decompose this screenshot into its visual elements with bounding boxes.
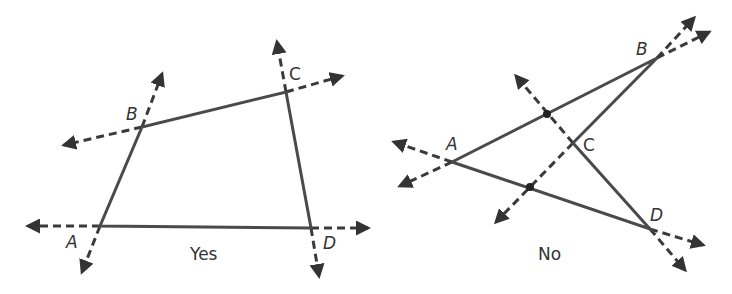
line-ab-extension-up (142, 74, 162, 127)
vertex-label-a: A (445, 134, 458, 154)
vertex-label-a: A (65, 232, 78, 252)
figure-caption-no: No (538, 244, 561, 264)
line-cd-extension-up (516, 76, 573, 143)
figure-caption-yes: Yes (189, 244, 218, 264)
intersection-point (543, 110, 551, 118)
line-ab-extension-down (82, 226, 100, 272)
vertex-label-d: D (323, 233, 336, 253)
quadrilateral-abcd (452, 58, 657, 229)
line-bc-extension-up (657, 18, 694, 58)
diagram-canvas: A B C D Yes A B C D No (0, 0, 732, 294)
line-ad-extension-right (650, 229, 703, 245)
line-cd-extension-down (311, 228, 319, 276)
vertex-label-c: C (583, 135, 595, 155)
line-bc-extension-down (496, 143, 573, 222)
line-ab-extension-left (400, 162, 452, 186)
line-cd-extension-up (277, 42, 286, 92)
vertex-label-c: C (289, 64, 301, 84)
intersection-point (526, 183, 534, 191)
line-bc-extension-left (64, 127, 142, 145)
vertex-label-d: D (650, 205, 663, 225)
crossed-quadrilateral-figure: A B C D No (394, 18, 709, 270)
line-ab-extension-right (657, 32, 709, 58)
line-ad-extension-left (394, 142, 452, 162)
vertex-label-b: B (636, 39, 648, 59)
vertex-label-b: B (126, 104, 138, 124)
convex-quadrilateral-figure: A B C D Yes (28, 42, 368, 276)
